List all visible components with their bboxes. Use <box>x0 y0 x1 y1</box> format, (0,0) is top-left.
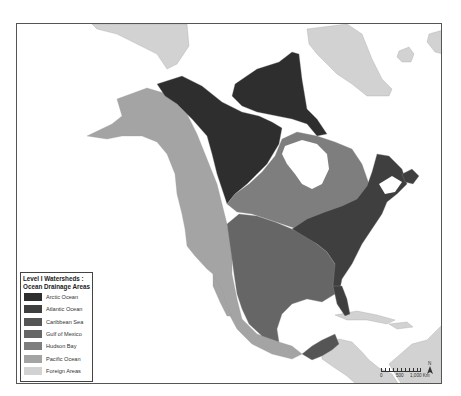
legend-item-gulf-of-mexico: Gulf of Mexico <box>23 328 90 340</box>
legend-label: Caribbean Sea <box>46 319 83 325</box>
legend: Level I Watersheds : Ocean Drainage Area… <box>20 272 93 382</box>
region-atlantic-florida <box>333 286 350 316</box>
legend-swatch <box>24 367 42 375</box>
legend-label: Arctic Ocean <box>46 294 78 300</box>
legend-title-line1: Level I Watersheds : <box>23 275 90 283</box>
legend-item-caribbean-sea: Caribbean Sea <box>23 316 90 328</box>
legend-label: Atlantic Ocean <box>46 306 82 312</box>
legend-title-line2: Ocean Drainage Areas <box>23 283 90 291</box>
legend-item-arctic-ocean: Arctic Ocean <box>23 291 90 303</box>
scale-bar-ticks <box>381 367 421 372</box>
legend-label: Pacific Ocean <box>46 356 81 362</box>
region-foreign-europe-edge <box>427 30 442 54</box>
legend-item-pacific-ocean: Pacific Ocean <box>23 352 90 364</box>
scale-label-0: 0 <box>380 373 383 378</box>
legend-swatch <box>24 318 42 326</box>
region-foreign-iceland <box>397 47 414 62</box>
map-frame: Level I Watersheds : Ocean Drainage Area… <box>16 23 442 384</box>
legend-swatch <box>24 330 42 338</box>
scale-label-500: 500 <box>396 373 404 378</box>
region-foreign-hispaniola <box>389 322 413 329</box>
north-arrow-label: N <box>428 361 431 366</box>
legend-item-atlantic-ocean: Atlantic Ocean <box>23 303 90 315</box>
scale-bar: 0 500 1,000 Km N <box>377 359 437 381</box>
region-foreign-russia <box>92 24 189 69</box>
north-arrow: N <box>426 361 434 375</box>
legend-swatch <box>24 355 42 363</box>
region-foreign-greenland <box>307 24 392 96</box>
legend-item-foreign-areas: Foreign Areas <box>23 365 90 377</box>
legend-item-hudson-bay: Hudson Bay <box>23 340 90 352</box>
legend-swatch <box>24 305 42 313</box>
legend-label: Hudson Bay <box>46 343 76 349</box>
legend-swatch <box>24 342 42 350</box>
legend-label: Foreign Areas <box>46 368 81 374</box>
legend-label: Gulf of Mexico <box>46 331 82 337</box>
legend-swatch <box>24 293 42 301</box>
